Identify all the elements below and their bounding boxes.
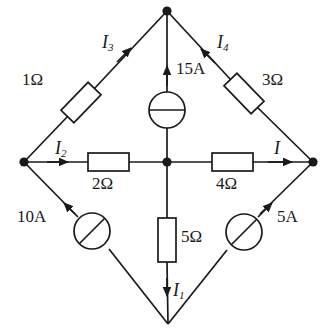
source-label-10a: 10A: [17, 208, 46, 225]
resistor-4ohm-body: [212, 153, 253, 171]
current-label-i4: I4: [217, 33, 229, 51]
current-arrow-i3: [117, 48, 131, 62]
branch-center-to-top: [149, 11, 185, 162]
current-label-i2: I2: [55, 139, 67, 157]
resistor-label-1ohm: 1Ω: [22, 71, 43, 88]
resistor-2ohm-body: [88, 153, 129, 171]
branch-left-to-top: [24, 11, 167, 162]
resistor-label-2ohm: 2Ω: [92, 175, 113, 192]
resistor-3ohm-body: [224, 73, 264, 114]
current-label-i1: I1: [173, 281, 185, 299]
current-arrow-10a: [64, 203, 78, 217]
branch-top-to-right: [167, 11, 313, 162]
current-label-i: I: [274, 139, 280, 157]
junction-dot-left: [19, 157, 28, 166]
current-label-i3: I3: [102, 33, 114, 51]
resistor-label-3ohm: 3Ω: [262, 71, 283, 88]
branch-left-to-center: [24, 153, 167, 171]
source-label-5a: 5A: [277, 208, 298, 225]
current-arrow-5a: [258, 203, 272, 217]
resistor-label-5ohm: 5Ω: [181, 228, 202, 245]
junction-dot-center: [162, 157, 171, 166]
circuit-diagram: I3 I4 15A 1Ω 3Ω I2 I 2Ω 4Ω 5Ω 10A 5A I1: [0, 0, 323, 336]
circuit-schematic-canvas: [0, 0, 323, 336]
resistor-label-4ohm: 4Ω: [216, 175, 237, 192]
junction-dot-top: [162, 6, 171, 15]
source-label-15a: 15A: [176, 60, 205, 77]
resistor-5ohm-body: [158, 218, 176, 262]
resistor-1ohm-body: [61, 82, 101, 123]
junction-dot-right: [308, 157, 317, 166]
